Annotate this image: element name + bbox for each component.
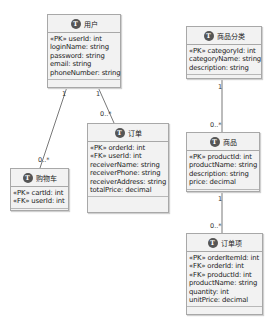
- field: description: string: [189, 170, 257, 178]
- entity-fields: «PK» orderItemId: int «FK» orderId: int …: [187, 252, 262, 306]
- field: receiverPhone: string: [90, 169, 166, 177]
- entity-header: T 商品分类: [187, 27, 261, 45]
- field: «PK» productId: int: [189, 153, 257, 161]
- field: «PK» orderItemId: int: [189, 254, 260, 262]
- multiplicity-label: 0..*: [210, 121, 222, 129]
- entity-title: 订单: [128, 128, 142, 138]
- field: price: decimal: [189, 178, 257, 186]
- entity-header: T 订单项: [187, 234, 262, 252]
- field: quantity: int: [189, 288, 260, 296]
- entity-title: 用户: [84, 19, 98, 29]
- entity-header: T 商品: [187, 133, 259, 151]
- field: description: string: [189, 64, 259, 72]
- entity-header: T 购物车: [11, 169, 68, 187]
- table-icon: T: [23, 173, 33, 183]
- field: receiverName: string: [90, 161, 166, 169]
- entity-footer: [187, 189, 259, 195]
- field: categoryName: string: [189, 55, 259, 63]
- multiplicity-label: 0..*: [38, 156, 50, 164]
- entity-fields: «PK» orderId: int «FK» userId: int recei…: [88, 142, 168, 196]
- field: productName: string: [189, 279, 260, 287]
- field: productName: string: [189, 161, 257, 169]
- field: «FK» userId: int: [13, 197, 66, 205]
- field: «PK» orderId: int: [90, 144, 166, 152]
- entity-user[interactable]: T 用户 «PK» userId: int loginName: string …: [47, 14, 121, 88]
- table-icon: T: [115, 128, 125, 138]
- field: «PK» cartId: int: [13, 189, 66, 197]
- multiplicity-label: 1: [96, 90, 100, 98]
- multiplicity-label: 1: [218, 195, 222, 203]
- table-icon: T: [71, 19, 81, 29]
- multiplicity-label: 0..*: [210, 222, 222, 230]
- multiplicity-label: 1: [62, 90, 66, 98]
- entity-order[interactable]: T 订单 «PK» orderId: int «FK» userId: int …: [87, 123, 169, 213]
- field: loginName: string: [50, 43, 118, 51]
- entity-title: 购物车: [36, 173, 57, 183]
- field: password: string: [50, 52, 118, 60]
- table-icon: T: [208, 238, 218, 248]
- multiplicity-label: 1: [218, 83, 222, 91]
- field: «FK» orderId: int: [189, 262, 260, 270]
- field: receiverAddress: string: [90, 178, 166, 186]
- multiplicity-label: 0..*: [100, 110, 112, 118]
- entity-fields: «PK» categoryId: int categoryName: strin…: [187, 45, 261, 74]
- entity-footer: [48, 79, 120, 85]
- entity-header: T 订单: [88, 124, 168, 142]
- entity-category[interactable]: T 商品分类 «PK» categoryId: int categoryName…: [186, 26, 262, 79]
- entity-header: T 用户: [48, 15, 120, 33]
- entity-title: 商品: [223, 137, 237, 147]
- entity-fields: «PK» productId: int productName: string …: [187, 151, 259, 189]
- entity-fields: «PK» cartId: int «FK» userId: int: [11, 187, 68, 208]
- entity-cart[interactable]: T 购物车 «PK» cartId: int «FK» userId: int: [10, 168, 69, 211]
- field: email: string: [50, 60, 118, 68]
- field: «PK» categoryId: int: [189, 47, 259, 55]
- field: totalPrice: decimal: [90, 186, 166, 194]
- entity-title: 订单项: [221, 238, 242, 248]
- entity-footer: [11, 208, 68, 214]
- field: «PK» userId: int: [50, 35, 118, 43]
- entity-footer: [187, 74, 261, 80]
- entity-footer: [88, 196, 168, 202]
- field: phoneNumber: string: [50, 69, 118, 77]
- table-icon: T: [204, 31, 214, 41]
- entity-fields: «PK» userId: int loginName: string passw…: [48, 33, 120, 79]
- entity-product[interactable]: T 商品 «PK» productId: int productName: st…: [186, 132, 260, 192]
- field: «FK» productId: int: [189, 271, 260, 279]
- entity-title: 商品分类: [217, 31, 245, 41]
- entity-footer: [187, 306, 262, 312]
- table-icon: T: [210, 137, 220, 147]
- entity-order-item[interactable]: T 订单项 «PK» orderItemId: int «FK» orderId…: [186, 233, 263, 315]
- field: «FK» userId: int: [90, 152, 166, 160]
- field: unitPrice: decimal: [189, 296, 260, 304]
